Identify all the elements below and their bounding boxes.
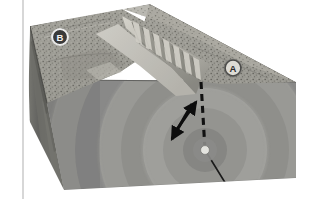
- marker-b-label: B: [57, 32, 64, 43]
- earthquake-focus: [193, 138, 217, 162]
- fault-block-diagram: B A: [0, 0, 313, 199]
- marker-b[interactable]: B: [51, 28, 69, 46]
- marker-a[interactable]: A: [224, 59, 242, 77]
- marker-a-label: A: [230, 63, 237, 74]
- diagram-canvas: B A: [0, 0, 313, 199]
